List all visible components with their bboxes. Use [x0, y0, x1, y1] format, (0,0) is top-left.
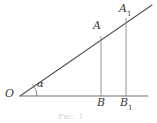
- vertex-label-b1: B1: [120, 97, 133, 111]
- vertex-label-a1: A1: [119, 3, 131, 17]
- vertex-label-b1-base: B: [120, 96, 128, 109]
- vertex-label-a1-base: A: [119, 2, 127, 15]
- figure-caption: Рис. 1: [58, 113, 83, 121]
- vertex-label-b1-subscript: 1: [128, 104, 132, 112]
- figure-canvas: [0, 0, 157, 123]
- geometry-figure: O α A A1 B B1 Рис. 1: [0, 0, 157, 123]
- vertex-label-a1-subscript: 1: [127, 10, 131, 18]
- vertex-label-a: A: [93, 20, 101, 31]
- vertex-label-b: B: [97, 97, 105, 108]
- angle-label-alpha: α: [37, 79, 44, 89]
- vertex-label-o: O: [5, 88, 14, 99]
